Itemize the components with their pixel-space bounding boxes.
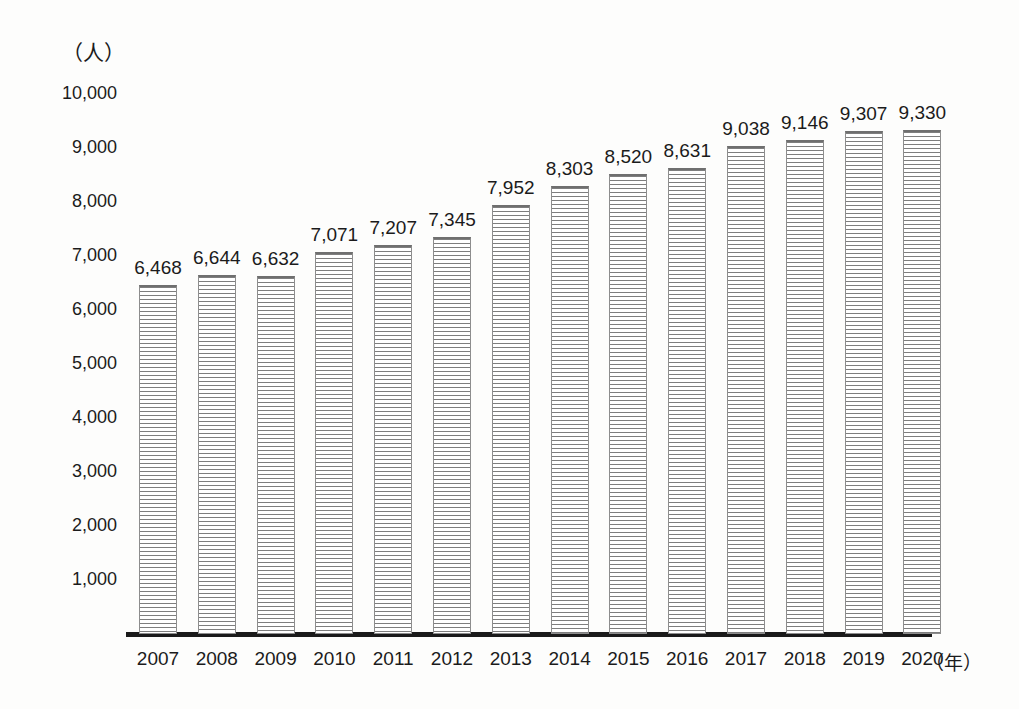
bar — [492, 205, 530, 634]
bar — [198, 275, 236, 634]
bar — [668, 168, 706, 634]
y-axis-tick-label: 4,000 — [39, 407, 117, 428]
bar — [551, 186, 589, 634]
y-axis-tick-label: 1,000 — [39, 569, 117, 590]
bar-value-label: 7,345 — [409, 209, 495, 231]
y-axis-tick-label: 10,000 — [39, 83, 117, 104]
y-axis-tick-labels: 10,0009,0008,0007,0006,0005,0004,0003,00… — [32, 0, 117, 709]
bar-value-label: 7,952 — [468, 177, 554, 199]
bar — [845, 131, 883, 634]
bar — [786, 140, 824, 634]
bar — [903, 130, 941, 634]
bar-value-label: 9,330 — [879, 102, 965, 124]
y-axis-tick-label: 8,000 — [39, 191, 117, 212]
bar — [139, 285, 177, 634]
bar-value-label: 8,631 — [644, 140, 730, 162]
y-axis-tick-label: 2,000 — [39, 515, 117, 536]
bar — [609, 174, 647, 634]
y-axis-tick-label: 7,000 — [39, 245, 117, 266]
bar — [727, 146, 765, 634]
y-axis-tick-label: 9,000 — [39, 137, 117, 158]
bar — [315, 252, 353, 634]
chart-page: （人） 10,0009,0008,0007,0006,0005,0004,000… — [0, 0, 1019, 709]
x-axis-tick-label: 2020 — [887, 648, 957, 670]
y-axis-tick-label: 3,000 — [39, 461, 117, 482]
bar — [374, 245, 412, 634]
y-axis-tick-label: 5,000 — [39, 353, 117, 374]
bar — [257, 276, 295, 634]
y-axis-tick-label: 6,000 — [39, 299, 117, 320]
bar-value-label: 6,632 — [233, 248, 319, 270]
bar — [433, 237, 471, 634]
